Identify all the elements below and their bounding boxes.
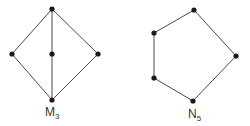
n5-edge-bottom-right [193,56,236,101]
m3-node-bottom [49,97,54,102]
n5-edge-right-top [194,10,236,56]
m3-node-left [9,51,14,56]
n5-edge-top-upper-left [154,10,194,33]
n5-node-top [191,7,196,12]
n5-node-upper-left [151,30,156,35]
m3-edge-right-bottom [52,54,98,100]
m3-node-middle [49,51,54,56]
n5-node-right [233,53,238,58]
n5-node-lower-left [151,75,156,80]
lattice-diagrams: M3 N5 [0,0,250,126]
m3-label: M3 [45,105,60,121]
n5-node-bottom [190,98,195,103]
m3-node-top [49,6,54,11]
m3-edge-top-left [12,9,52,54]
m3-diagram: M3 [9,6,100,121]
m3-edge-left-bottom [12,54,52,100]
n5-edge-lower-left-bottom [154,78,193,101]
n5-diagram: N5 [151,7,238,123]
m3-edge-top-right [52,9,98,54]
n5-label: N5 [188,107,202,123]
m3-node-right [95,51,100,56]
